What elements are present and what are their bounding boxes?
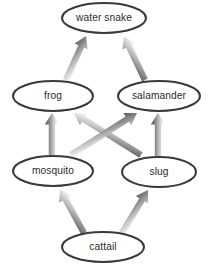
energy-flow-arrow — [151, 113, 166, 156]
energy-flow-arrow — [45, 113, 60, 155]
energy-flow-arrow — [59, 33, 92, 83]
energy-flow-arrow — [54, 186, 91, 237]
node-label-salamander: salamander — [132, 90, 187, 101]
node-label-mosquito: mosquito — [32, 165, 74, 176]
arrow-mosquito_to_frog — [45, 113, 60, 155]
node-water_snake[interactable]: water snake — [62, 3, 146, 33]
arrow-slug_to_salamander — [151, 113, 166, 156]
node-salamander[interactable]: salamander — [118, 81, 200, 111]
node-mosquito[interactable]: mosquito — [13, 156, 93, 186]
node-cattail[interactable]: cattail — [62, 232, 144, 262]
energy-flow-arrow — [116, 186, 154, 237]
arrow-cattail_to_slug — [116, 186, 154, 237]
node-label-frog: frog — [44, 90, 62, 101]
node-label-cattail: cattail — [89, 241, 116, 252]
arrow-cattail_to_mosquito — [54, 186, 91, 237]
arrow-layer — [45, 33, 166, 237]
node-slug[interactable]: slug — [122, 157, 196, 187]
food-web-diagram: water snakefrogsalamandermosquitoslugcat… — [0, 0, 208, 264]
energy-flow-arrow — [117, 33, 151, 83]
node-frog[interactable]: frog — [13, 81, 93, 111]
food-web-canvas: water snakefrogsalamandermosquitoslugcat… — [0, 0, 208, 264]
arrow-frog_to_water_snake — [59, 33, 92, 83]
node-label-slug: slug — [149, 166, 168, 177]
node-label-water_snake: water snake — [75, 12, 132, 23]
arrow-salamander_to_water_snake — [117, 33, 151, 83]
